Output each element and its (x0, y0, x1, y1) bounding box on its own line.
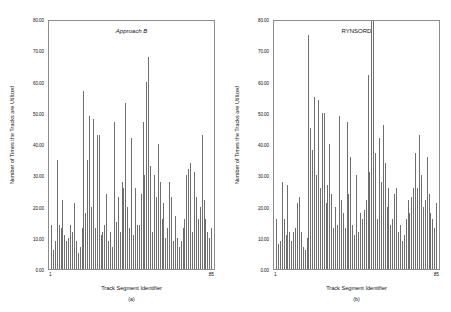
bar (202, 135, 203, 269)
bar (116, 222, 117, 269)
bar (345, 228, 346, 269)
y-tick-label-a-2: 20.00 (33, 205, 44, 210)
y-tick-label-a-1: 10.00 (33, 236, 44, 241)
bar (312, 150, 313, 269)
bar (204, 200, 205, 269)
bar (175, 216, 176, 269)
y-tick-label-b-2: 20.00 (258, 205, 269, 210)
bar (87, 160, 88, 269)
bar (62, 200, 63, 269)
bar (369, 172, 370, 269)
bar (390, 225, 391, 269)
bar (413, 188, 414, 269)
bar (432, 219, 433, 269)
bar (163, 203, 164, 269)
bar (429, 194, 430, 269)
bar (207, 232, 208, 270)
bar (434, 228, 435, 269)
bar (205, 219, 206, 269)
y-tick-label-a-8: 80.00 (33, 18, 44, 23)
panel-caption-a: (a) (48, 296, 215, 302)
y-tick-label-b-4: 40.00 (258, 143, 269, 148)
bar (167, 228, 168, 269)
bar (143, 122, 144, 269)
bar (93, 119, 94, 269)
y-tick-label-a-3: 30.00 (33, 174, 44, 179)
bar (282, 182, 283, 270)
bar (316, 175, 317, 269)
bar (425, 200, 426, 269)
bar (318, 100, 319, 269)
plot-area-a: Approach B (48, 20, 215, 270)
bar (436, 203, 437, 269)
bar (74, 203, 75, 269)
bar (371, 20, 372, 269)
bar (91, 207, 92, 270)
plot-area-b: RYNSORD (273, 20, 440, 270)
bar (398, 232, 399, 270)
bar (419, 135, 420, 269)
bar (350, 157, 351, 270)
bar (78, 253, 79, 269)
y-axis-label-b: Number of Times the Tracks are Utilized (230, 0, 244, 270)
y-axis-ticks-a: 0.0010.0020.0030.0040.0050.0060.0070.008… (18, 20, 46, 270)
bar (154, 175, 155, 269)
bar (110, 232, 111, 270)
bar (430, 213, 431, 269)
bar (184, 219, 185, 269)
bar (183, 228, 184, 269)
bar (95, 228, 96, 269)
bar (278, 244, 279, 269)
bar (387, 207, 388, 270)
bar (188, 169, 189, 269)
bar (329, 144, 330, 269)
bar (114, 122, 115, 269)
bar (284, 219, 285, 269)
x-tick-min-a: 1 (49, 272, 52, 277)
bar (385, 163, 386, 269)
bar (326, 203, 327, 269)
bar (53, 250, 54, 269)
bar (190, 163, 191, 269)
bar (394, 194, 395, 269)
bar (409, 213, 410, 269)
bar (160, 182, 161, 270)
bar (120, 232, 121, 270)
bar (108, 241, 109, 269)
bar (177, 238, 178, 269)
bar (358, 232, 359, 270)
bar (139, 225, 140, 269)
bar (299, 197, 300, 269)
bar (211, 228, 212, 269)
bar (76, 241, 77, 269)
bar (89, 116, 90, 269)
bar (131, 138, 132, 269)
x-tick-max-a: 85 (209, 272, 214, 277)
bar (82, 228, 83, 269)
bar (101, 235, 102, 269)
bar (158, 144, 159, 269)
panel-b: Number of Times the Tracks are Utilized … (225, 0, 450, 312)
bar (331, 194, 332, 269)
y-tick-label-a-5: 50.00 (33, 111, 44, 116)
figure-two-panel-bar-charts: Number of Times the Tracks are Utilized … (0, 0, 451, 312)
bar (83, 91, 84, 269)
bar-series-a (49, 21, 214, 269)
bar (327, 185, 328, 269)
bar (61, 228, 62, 269)
bar (297, 203, 298, 269)
bar (209, 238, 210, 269)
bar (314, 97, 315, 269)
bar (127, 207, 128, 270)
bar (421, 175, 422, 269)
bar (356, 175, 357, 269)
bar (352, 225, 353, 269)
bar (198, 219, 199, 269)
bar (55, 241, 56, 269)
bar (335, 207, 336, 270)
bar (133, 235, 134, 269)
bar (104, 225, 105, 269)
y-tick-label-b-1: 10.00 (258, 236, 269, 241)
bar (320, 188, 321, 269)
bar (85, 213, 86, 269)
